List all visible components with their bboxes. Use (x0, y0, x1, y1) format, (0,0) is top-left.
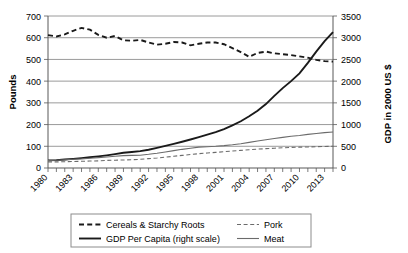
ytick-0: 0 (36, 163, 41, 173)
ytick-500: 500 (26, 55, 41, 65)
xtick-label-1992: 1992 (129, 172, 150, 193)
ytick-300: 300 (26, 98, 41, 108)
xtick-label-2013: 2013 (305, 172, 326, 193)
xtick-label-1995: 1995 (154, 172, 175, 193)
line-chart: 700 600 500 400 300 200 100 0 3500 3000 … (0, 0, 408, 253)
ytick-400: 400 (26, 77, 41, 87)
legend-label-gdp: GDP Per Capita (right scale) (106, 234, 220, 244)
xtick-label-2010: 2010 (280, 172, 301, 193)
xtick-label-2007: 2007 (255, 172, 276, 193)
legend-label-meat: Meat (264, 234, 285, 244)
y2tick-500: 500 (341, 142, 356, 152)
y2tick-1500: 1500 (341, 98, 361, 108)
y2-axis-title: GDP in 2000 US $ (382, 64, 393, 144)
xtick-label-1980: 1980 (28, 172, 49, 193)
x-axis-labels: 1980198319861989199219951998200120042007… (28, 172, 326, 193)
ytick-700: 700 (26, 12, 41, 22)
left-axis-labels: 700 600 500 400 300 200 100 0 (26, 12, 41, 174)
xtick-label-2004: 2004 (229, 172, 250, 193)
xtick-label-1998: 1998 (179, 172, 200, 193)
xtick-label-1983: 1983 (53, 172, 74, 193)
y2tick-3000: 3000 (341, 33, 361, 43)
x-axis-ticks (48, 168, 333, 172)
ytick-600: 600 (26, 33, 41, 43)
y-axis-title: Pounds (7, 75, 18, 110)
legend-label-pork: Pork (264, 220, 283, 230)
y2tick-1000: 1000 (341, 120, 361, 130)
right-axis-ticks (333, 16, 337, 168)
right-axis-labels: 3500 3000 2500 2000 1500 1000 500 0 (341, 12, 361, 174)
xtick-label-1989: 1989 (104, 172, 125, 193)
y2tick-0: 0 (341, 163, 346, 173)
chart-container: 700 600 500 400 300 200 100 0 3500 3000 … (0, 0, 408, 253)
ytick-100: 100 (26, 142, 41, 152)
xtick-label-2001: 2001 (204, 172, 225, 193)
ytick-200: 200 (26, 120, 41, 130)
left-axis-ticks (44, 16, 48, 168)
y2tick-2500: 2500 (341, 55, 361, 65)
y2tick-2000: 2000 (341, 77, 361, 87)
legend-label-cereals: Cereals & Starchy Roots (106, 220, 205, 230)
plot-area (48, 16, 333, 168)
y2tick-3500: 3500 (341, 12, 361, 22)
chart-legend: Cereals & Starchy Roots Pork GDP Per Cap… (71, 214, 311, 247)
xtick-label-1986: 1986 (78, 172, 99, 193)
